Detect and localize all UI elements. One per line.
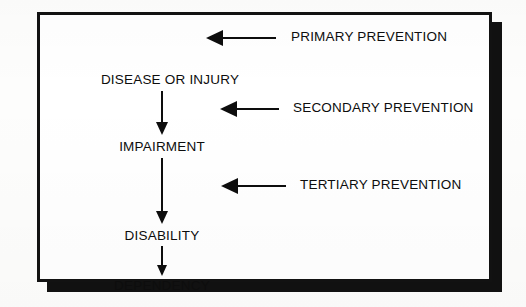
arrow-shaft (236, 185, 286, 187)
prevention-label-primary: PRIMARY PREVENTION (291, 28, 447, 46)
arrow-shaft (161, 158, 163, 211)
arrow-shaft (161, 246, 163, 265)
figure-frame: DISEASE OR INJURY IMPAIRMENT DISABILITY … (37, 12, 492, 282)
prevention-arrow-secondary: SECONDARY PREVENTION (220, 100, 500, 118)
arrow-shaft (161, 91, 163, 122)
chain-node-impairment: IMPAIRMENT (119, 140, 205, 154)
arrow-shaft (235, 108, 279, 110)
prevention-label-tertiary: TERTIARY PREVENTION (300, 176, 461, 194)
chain-node-disability: DISABILITY (125, 229, 200, 243)
chain-node-dependency: DEPENDENCY (114, 279, 210, 293)
prevention-arrow-primary: PRIMARY PREVENTION (206, 29, 491, 47)
diagram-screenshot: DISEASE OR INJURY IMPAIRMENT DISABILITY … (0, 0, 526, 307)
arrow-head-down-icon (156, 211, 168, 224)
arrow-shaft (221, 37, 276, 39)
prevention-label-secondary: SECONDARY PREVENTION (293, 99, 474, 117)
figure-content: DISEASE OR INJURY IMPAIRMENT DISABILITY … (40, 15, 489, 279)
arrow-head-down-icon (156, 122, 168, 135)
prevention-arrow-tertiary: TERTIARY PREVENTION (221, 177, 496, 195)
arrow-head-down-icon (157, 265, 167, 276)
chain-node-disease-or-injury: DISEASE OR INJURY (101, 73, 239, 87)
